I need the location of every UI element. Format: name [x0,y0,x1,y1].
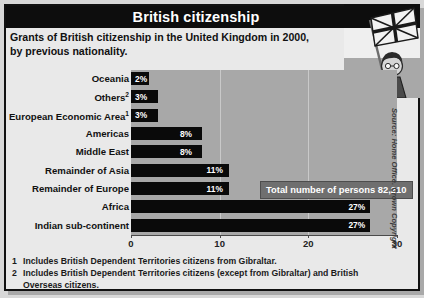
bar-row: Middle East8% [8,143,414,161]
footnote-text: Includes British Dependent Territories c… [23,267,392,291]
chart-subtitle: Grants of British citizenship in the Uni… [10,31,310,58]
category-label: Americas [86,128,129,139]
bar-row: Indian sub-continent27% [8,217,414,235]
footnote-text: Includes British Dependent Territories c… [23,255,277,267]
footnote-number: 1 [12,255,19,267]
bar-value-label: 27% [348,202,365,212]
footnote-item: 2 Includes British Dependent Territories… [12,267,392,291]
x-axis-tick-label: 20 [303,238,314,249]
category-label: Middle East [76,146,129,157]
category-label: Others2 [94,91,129,103]
category-label: European Economic Area1 [9,110,129,122]
bar-value-label: 3% [135,92,147,102]
x-axis-tick-label: 0 [128,238,133,249]
bar-row: Others23% [8,88,414,106]
footnote-number: 2 [12,267,19,291]
x-axis-tick-label: 10 [214,238,225,249]
footnote-marker: 1 [125,110,129,117]
bar [131,200,370,213]
footnote-marker: 2 [125,91,129,98]
bar-row: Oceania2% [8,70,414,88]
source-credit: Source: Home Office. Crown Copyright [390,108,399,258]
bar-value-label: 3% [135,110,147,120]
category-label: Africa [102,201,129,212]
chart-plot: 0102030 Oceania2%Others23%European Econo… [8,70,414,242]
category-label: Remainder of Europe [32,183,129,194]
footnotes: 1 Includes British Dependent Territories… [12,255,392,291]
bar-value-label: 11% [207,165,223,175]
bar-row: Remainder of Asia11% [8,162,414,180]
bar-row: European Economic Area13% [8,107,414,125]
page-title: British citizenship [6,9,386,25]
bar-value-label: 8% [180,147,192,157]
bar-row: Americas8% [8,125,414,143]
x-axis-line [131,235,398,236]
category-label: Oceania [92,73,129,84]
bar-row: Africa27% [8,198,414,216]
bar-value-label: 27% [348,220,365,230]
total-persons-label: Total number of persons 82,210 [266,184,407,195]
footnote-item: 1 Includes British Dependent Territories… [12,255,392,267]
category-label: Indian sub-continent [35,220,129,231]
bar-value-label: 2% [135,74,147,84]
bar-value-label: 11% [207,184,223,194]
category-label: Remainder of Asia [45,165,129,176]
bar [131,219,370,232]
bar-value-label: 8% [180,129,192,139]
infographic-root: British citizenship [0,0,424,298]
